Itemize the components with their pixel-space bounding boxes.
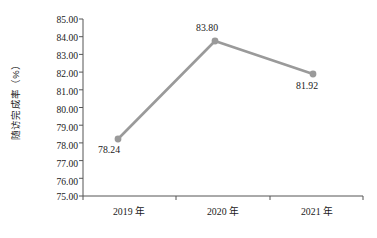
y-axis-ticks	[79, 19, 83, 196]
x-tick-label: 2020 年	[193, 206, 253, 217]
data-point-marker	[212, 38, 219, 45]
plot-area	[0, 0, 377, 238]
x-tick-label: 2019 年	[99, 206, 159, 217]
data-point-label: 83.80	[196, 22, 218, 33]
data-line-series-1	[118, 41, 313, 139]
data-point-label: 78.24	[98, 144, 120, 155]
data-point-marker	[310, 71, 317, 78]
x-tick-label: 2021 年	[287, 206, 347, 217]
chart-container: 随访完成率（%） 85.00 84.00 83.00 82.00 81.00 8…	[0, 0, 377, 238]
data-point-marker	[115, 136, 122, 143]
x-axis-ticks	[83, 196, 363, 200]
data-point-label: 81.92	[296, 80, 318, 91]
